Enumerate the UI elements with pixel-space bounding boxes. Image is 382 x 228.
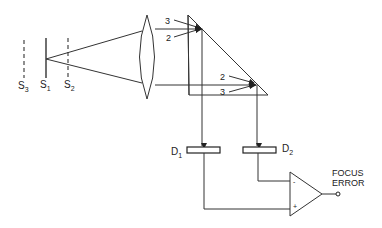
label-d1: D1 [171,146,182,159]
output-label-line2: ERROR [332,178,365,188]
output-label-line1: FOCUS [332,168,364,178]
detector-beams [202,29,257,146]
label-d2: D2 [282,143,293,156]
detector-d2 [243,147,276,153]
ray-label-3-lower: 3 [220,87,225,97]
light-cone [46,31,142,83]
prism [188,15,268,95]
label-s1: S1 [40,79,51,92]
lens [140,15,155,99]
detector-d1 [187,147,220,153]
noninverting-input-sign: + [293,203,297,210]
label-s3: S3 [18,80,29,93]
wiring [204,153,290,209]
label-s2: S2 [64,79,75,92]
ray-label-2-upper: 2 [166,33,171,43]
ray-label-2-lower: 2 [220,72,225,82]
ray-label-3-upper: 3 [165,16,170,26]
inverting-input-sign: - [293,178,296,185]
focus-error-diagram: S3 S1 S2 3 2 2 3 D1 [0,0,382,228]
